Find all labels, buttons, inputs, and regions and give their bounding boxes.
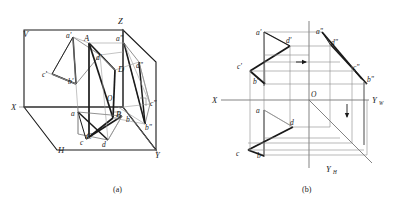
label-point-b-prime-a: b'	[68, 77, 74, 86]
label-point-b-prime-b: b'	[253, 77, 259, 86]
label-point-d-dprime-b: d"	[331, 38, 339, 47]
label-point-d-h-a: d	[102, 140, 106, 149]
label-point-c-h-b: c	[236, 149, 240, 158]
svg-text:Y: Y	[326, 164, 332, 174]
transfer-lines-45	[248, 100, 367, 155]
label-point-c-prime-b: c'	[237, 62, 242, 71]
w-projection-quad-a	[124, 43, 150, 124]
label-point-B: B	[116, 109, 121, 119]
label-point-d-prime-a: d'	[96, 53, 102, 62]
label-point-b-h-b: b	[257, 151, 261, 160]
label-point-b-dprime-a: b"	[145, 123, 153, 132]
label-point-a-dprime-a: a"	[116, 34, 124, 43]
projection-tie-lines-horizontal	[250, 32, 367, 84]
label-origin-b: O	[311, 90, 317, 99]
projection-figure-svg: V H X Y Z O A B C D a' b' c' d' a b c d …	[0, 0, 399, 204]
label-point-a-dprime-b: a"	[316, 27, 324, 36]
label-axis-x-b: X	[211, 95, 218, 105]
label-point-A: A	[83, 33, 90, 43]
label-point-c-dprime-b: c"	[353, 63, 360, 72]
label-axis-yh-b: Y H	[326, 164, 337, 175]
caption-a: (a)	[113, 185, 122, 194]
panel-b-axes	[221, 21, 372, 168]
panel-b-group: X Y W Y H O a' d' c' b' a" d" c" b" a d …	[211, 21, 384, 175]
axis-45-bisector	[309, 100, 372, 163]
label-axis-y-a: Y	[155, 150, 161, 160]
caption-b: (b)	[302, 185, 312, 194]
svg-text:Y: Y	[372, 95, 378, 105]
label-point-d-h-b: d	[290, 118, 294, 127]
label-point-a-h-a: a	[71, 109, 75, 118]
label-point-c-dprime-a: c"	[150, 99, 157, 108]
direction-arrow-down	[345, 104, 349, 118]
label-point-d-dprime-a: d"	[136, 61, 144, 70]
figure-captions: (a) (b)	[113, 185, 312, 194]
label-origin-a: O	[107, 94, 113, 103]
label-point-a-h-b: a	[256, 106, 260, 115]
label-axis-yw-b: Y W	[372, 95, 384, 106]
label-point-b-dprime-b: b"	[367, 75, 375, 84]
w-view-quad-b	[322, 32, 367, 145]
panel-a-labels: V H X Y Z O A B C D a' b' c' d' a b c d …	[10, 16, 161, 160]
figure-container: V H X Y Z O A B C D a' b' c' d' a b c d …	[0, 0, 399, 204]
label-axis-yh-subscript: H	[332, 169, 337, 175]
projection-tie-lines-vertical	[250, 46, 290, 150]
label-point-b-h-a: b	[126, 115, 130, 124]
label-point-d-prime-b: d'	[286, 36, 292, 45]
label-plane-h: H	[57, 145, 65, 155]
panel-a-group: V H X Y Z O A B C D a' b' c' d' a b c d …	[10, 16, 161, 160]
label-point-D: D	[117, 64, 125, 74]
label-point-a-prime-a: a'	[66, 31, 72, 40]
label-point-a-prime-b: a'	[256, 28, 262, 37]
label-point-C: C	[86, 131, 92, 141]
label-axis-z-a: Z	[118, 16, 123, 26]
direction-arrow-right	[296, 60, 307, 64]
label-axis-yw-subscript: W	[379, 100, 384, 106]
label-point-c-prime-a: c'	[42, 70, 47, 79]
label-point-c-h-a: c	[80, 138, 84, 147]
label-axis-x-a: X	[10, 102, 17, 112]
panel-b-labels: X Y W Y H O a' d' c' b' a" d" c" b" a d …	[211, 27, 384, 175]
